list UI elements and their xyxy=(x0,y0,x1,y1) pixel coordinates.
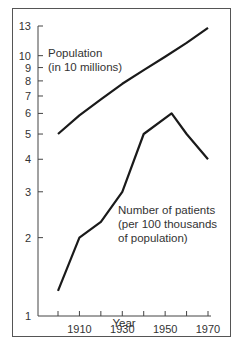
y-tick-label: 5 xyxy=(25,128,31,140)
x-tick-label: 1910 xyxy=(67,323,91,335)
y-tick-label: 10 xyxy=(19,50,31,62)
y-tick-label: 2 xyxy=(25,232,31,244)
line-chart: 12345678910131910193019501970 Population… xyxy=(0,0,239,346)
patients-label: (per 100 thousands xyxy=(118,218,217,230)
population-line xyxy=(58,28,208,134)
population-label: Population xyxy=(48,47,102,59)
patients-line xyxy=(58,113,208,290)
y-tick-label: 1 xyxy=(25,310,31,322)
x-tick-label: 1950 xyxy=(153,323,177,335)
y-tick-label: 13 xyxy=(19,20,31,32)
population-label: (in 10 millions) xyxy=(48,61,122,73)
patients-label: of population) xyxy=(118,232,188,244)
y-tick-label: 6 xyxy=(25,107,31,119)
patients-label: Number of patients xyxy=(118,204,215,216)
y-tick-label: 3 xyxy=(25,186,31,198)
x-axis-label: Year xyxy=(112,317,135,329)
y-tick-label: 7 xyxy=(25,90,31,102)
y-tick-label: 4 xyxy=(25,153,31,165)
y-tick-label: 8 xyxy=(25,75,31,87)
y-tick-label: 9 xyxy=(25,62,31,74)
x-tick-label: 1970 xyxy=(196,323,220,335)
